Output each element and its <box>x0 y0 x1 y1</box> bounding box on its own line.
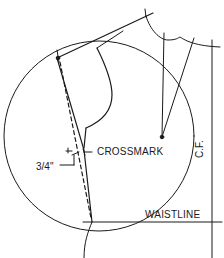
dart-leg-right <box>162 38 194 137</box>
shoulder-line <box>57 13 153 58</box>
neckline-curve <box>146 16 220 47</box>
armhole-curve <box>86 48 112 128</box>
crossmark-label: CROSSMARK <box>97 147 163 157</box>
dart-apex <box>160 135 164 139</box>
dashed-original-side-seam <box>60 62 91 218</box>
waistline-label: WAISTLINE <box>145 210 200 220</box>
dart-leg-left <box>162 33 164 137</box>
side-seam <box>57 58 92 222</box>
pattern-diagram: CROSSMARK 3/4" WAISTLINE C.F. <box>0 0 224 258</box>
armhole-side-join <box>84 128 86 148</box>
center-front-label: C.F. <box>195 140 205 158</box>
measurement-label: 3/4" <box>36 162 53 172</box>
guide-circle <box>4 41 194 231</box>
shoulder-point <box>56 56 60 60</box>
hip-curve <box>84 222 92 258</box>
